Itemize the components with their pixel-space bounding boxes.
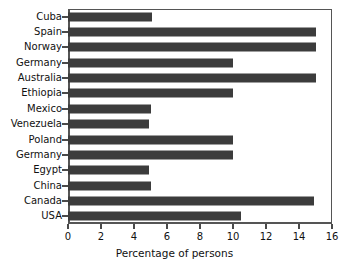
value-tick-label: 14 (284, 231, 314, 242)
category-tick (62, 154, 68, 156)
category-tick (62, 46, 68, 48)
category-label: China (33, 181, 62, 191)
value-tick-label: 2 (86, 231, 116, 242)
value-tick (100, 224, 102, 229)
category-label: Spain (34, 27, 62, 37)
category-tick (62, 123, 68, 125)
category-label: Ethiopia (21, 88, 62, 98)
value-tick-label: 16 (317, 231, 347, 242)
bar-row (68, 209, 332, 224)
value-tick-label: 0 (53, 231, 83, 242)
bar-row (68, 193, 332, 208)
category-label: Australia (18, 73, 62, 83)
bar (68, 196, 314, 205)
bar (68, 166, 149, 175)
bar (68, 150, 233, 159)
value-tick (232, 224, 234, 229)
bar (68, 212, 241, 221)
value-tick (331, 224, 333, 229)
category-label: USA (41, 211, 62, 221)
bar (68, 89, 233, 98)
category-label: Germany (16, 150, 62, 160)
bar (68, 135, 233, 144)
value-tick-label: 4 (119, 231, 149, 242)
category-tick (62, 185, 68, 187)
value-tick-label: 8 (185, 231, 215, 242)
category-tick (62, 16, 68, 18)
value-tick (67, 224, 69, 229)
bar-row (68, 40, 332, 55)
bar-row (68, 178, 332, 193)
value-tick-label: 12 (251, 231, 281, 242)
bar (68, 120, 149, 129)
bar-row (68, 70, 332, 85)
bar-row (68, 24, 332, 39)
bar-row (68, 9, 332, 24)
category-label: Norway (24, 42, 62, 52)
value-tick (199, 224, 201, 229)
value-tick-label: 10 (218, 231, 248, 242)
category-tick (62, 200, 68, 202)
bar-row (68, 132, 332, 147)
category-tick (62, 169, 68, 171)
bar-row (68, 55, 332, 70)
bar (68, 28, 316, 37)
category-tick (62, 215, 68, 217)
x-axis-title: Percentage of persons (0, 247, 349, 259)
category-tick (62, 31, 68, 33)
value-tick-label: 6 (152, 231, 182, 242)
category-label: Poland (29, 135, 62, 145)
value-tick (133, 224, 135, 229)
bar (68, 181, 151, 190)
category-tick (62, 108, 68, 110)
value-tick (298, 224, 300, 229)
category-label: Cuba (36, 12, 62, 22)
bar (68, 12, 152, 21)
category-label: Germany (16, 58, 62, 68)
category-tick (62, 139, 68, 141)
bar-chart: CubaSpainNorwayGermanyAustraliaEthiopiaM… (0, 0, 349, 268)
bar-row (68, 117, 332, 132)
category-label: Canada (24, 196, 62, 206)
bar (68, 74, 316, 83)
category-label: Venezuela (11, 119, 62, 129)
category-label: Egypt (33, 165, 62, 175)
bar-row (68, 101, 332, 116)
bar (68, 58, 233, 67)
value-tick (265, 224, 267, 229)
category-label: Mexico (27, 104, 62, 114)
category-tick (62, 92, 68, 94)
category-tick (62, 62, 68, 64)
bar-row (68, 163, 332, 178)
value-tick (166, 224, 168, 229)
bar-row (68, 147, 332, 162)
category-tick (62, 77, 68, 79)
bar (68, 43, 316, 52)
bar-row (68, 86, 332, 101)
bar (68, 104, 151, 113)
